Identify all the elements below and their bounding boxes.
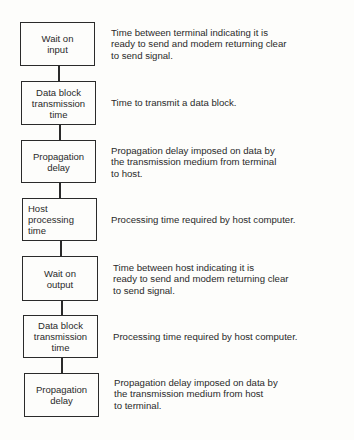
step-label: Data block transmission time [32,87,85,120]
step-box-data-block-transmission-time: Data block transmission time [21,81,96,125]
step-label: Host processing time [28,203,74,236]
connector-line-5 [61,301,63,315]
step-description: Propagation delay imposed on data by the… [114,372,344,416]
connector-line-4 [60,241,62,256]
step-description: Time to transmit a data block. [111,81,341,125]
step-box-data-block-transmission-time-2: Data block transmission time [23,315,98,358]
connector-line-6 [61,358,63,373]
step-label: Wait on input [42,33,74,55]
step-label: Wait on output [44,268,76,290]
connector-line-2 [59,125,61,140]
step-box-propagation-delay-2: Propagation delay [24,373,99,417]
step-description: Time between terminal indicating it is r… [111,22,341,66]
step-description: Propagation delay imposed on data by the… [111,140,341,184]
step-box-wait-on-input: Wait on input [20,22,95,66]
step-description: Time between host indicating it is ready… [113,257,343,301]
connector-line-1 [58,66,60,81]
step-label: Propagation delay [33,151,84,173]
step-label: Data block transmission time [34,320,87,353]
step-box-wait-on-output: Wait on output [22,256,98,301]
step-label: Propagation delay [36,384,87,406]
connector-line-3 [59,183,61,198]
step-box-propagation-delay: Propagation delay [21,140,96,183]
step-box-host-processing-time: Host processing time [22,198,97,241]
step-description: Processing time required by host compute… [113,315,343,359]
step-description: Processing time required by host compute… [111,198,341,242]
